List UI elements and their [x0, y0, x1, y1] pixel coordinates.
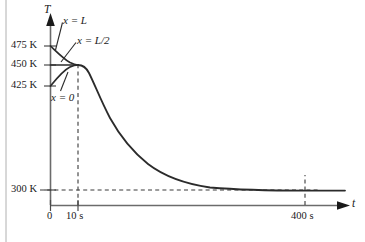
chart-canvas — [0, 0, 365, 242]
series-curve-x-equals-L — [51, 46, 79, 65]
leader-line-x-equals-0 — [61, 72, 69, 91]
x-tick-label-400s: 400 s — [291, 211, 313, 222]
annotation-x-equals-L: x = L — [63, 15, 87, 26]
annotation-x-equals-0: x = 0 — [51, 92, 74, 103]
y-tick-label-450: 450 K — [11, 59, 37, 70]
leader-line-x-equals-L — [56, 23, 63, 51]
x-tick-label-10s: 10 s — [66, 211, 83, 222]
y-tick-label-425: 425 K — [11, 80, 37, 91]
y-tick-label-300: 300 K — [11, 184, 37, 195]
series-curve-cooling-decay — [78, 65, 345, 191]
x-tick-label-0: 0 — [47, 211, 52, 222]
leader-line-x-equals-L-over-2 — [61, 43, 76, 63]
x-axis-arrowhead — [337, 201, 350, 210]
annotation-x-equals-L-over-2: x = L/2 — [77, 35, 109, 46]
x-axis-title: t — [352, 198, 355, 210]
chart-figure: 475 K 450 K 425 K 300 K 0 10 s 400 s T t… — [0, 0, 365, 242]
y-axis-title: T — [44, 4, 50, 16]
y-tick-label-475: 475 K — [11, 40, 37, 51]
